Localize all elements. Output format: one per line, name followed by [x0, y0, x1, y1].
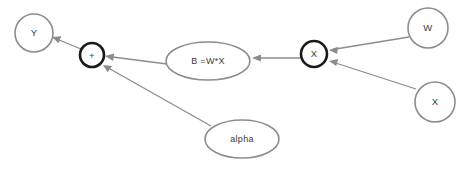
arrowhead-icon [103, 65, 112, 72]
node-plus-label: + [89, 50, 95, 61]
diagram-canvas: Y + B =W*X X W X [0, 0, 471, 175]
node-plus[interactable]: + [80, 43, 104, 67]
node-b-label: B =W*X [191, 56, 225, 66]
node-alpha[interactable]: alpha [205, 120, 279, 158]
arrowhead-icon [52, 36, 61, 43]
node-w[interactable]: W [408, 8, 448, 48]
node-w-label: W [423, 22, 432, 33]
node-x[interactable]: X [415, 82, 455, 122]
node-layer: Y + B =W*X X W X [15, 8, 455, 158]
arrowhead-icon [252, 55, 261, 62]
node-alpha-label: alpha [230, 134, 254, 144]
node-multiply[interactable]: X [301, 41, 327, 67]
node-y-label: Y [31, 27, 38, 38]
arrowhead-icon [329, 47, 338, 54]
arrowhead-icon [105, 54, 114, 61]
node-multiply-label: X [311, 48, 318, 59]
edge-b-to-plus [105, 54, 167, 64]
computational-graph: Y + B =W*X X W X [0, 0, 471, 175]
edge-line [109, 57, 168, 65]
edge-multiply-to-b [252, 55, 300, 62]
edge-x-to-multiply [329, 59, 416, 89]
node-b[interactable]: B =W*X [166, 42, 250, 80]
node-y[interactable]: Y [15, 14, 53, 52]
arrowhead-icon [329, 59, 338, 66]
edge-w-to-multiply [329, 37, 409, 54]
edge-line [333, 62, 417, 89]
node-x-label: X [432, 96, 439, 107]
edge-line [333, 37, 410, 50]
edge-plus-to-y [52, 36, 81, 49]
